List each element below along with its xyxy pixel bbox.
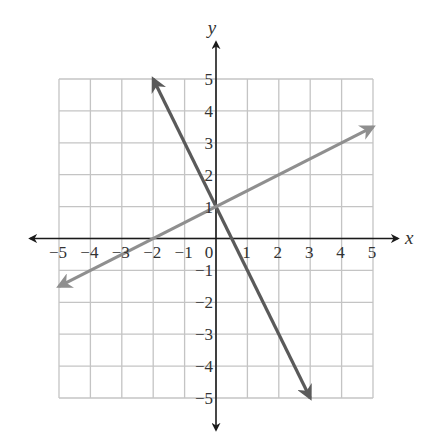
x-tick-label: 1 [242, 243, 251, 262]
x-tick-label: 2 [274, 243, 283, 262]
x-tick-label: −1 [175, 243, 193, 262]
x-tick-label: 0 [205, 243, 214, 262]
x-tick-label: −2 [143, 243, 161, 262]
y-tick-label: −5 [195, 389, 213, 408]
y-axis-label: y [206, 17, 217, 38]
x-tick-label: 3 [305, 243, 314, 262]
x-tick-label: 5 [368, 243, 377, 262]
x-tick-label: −5 [49, 243, 67, 262]
x-axis-label: x [404, 227, 414, 248]
y-tick-label: 5 [205, 70, 214, 89]
y-tick-label: −1 [195, 261, 213, 280]
tick-labels: −5−4−3−2−1012345−5−4−3−2−112345xy [49, 17, 414, 408]
y-tick-label: 4 [205, 102, 214, 121]
y-tick-label: 3 [205, 134, 214, 153]
y-tick-label: −3 [195, 325, 213, 344]
x-tick-label: −4 [80, 243, 99, 262]
plot-area: −5−4−3−2−1012345−5−4−3−2−112345xy [0, 0, 426, 445]
x-tick-label: 4 [336, 243, 345, 262]
coordinate-plane: −5−4−3−2−1012345−5−4−3−2−112345xy [0, 0, 426, 445]
axes [30, 42, 398, 430]
y-tick-label: 1 [205, 198, 214, 217]
y-tick-label: 2 [205, 166, 214, 185]
y-tick-label: −4 [195, 357, 214, 376]
y-tick-label: −2 [195, 293, 213, 312]
x-tick-label: −3 [112, 243, 130, 262]
